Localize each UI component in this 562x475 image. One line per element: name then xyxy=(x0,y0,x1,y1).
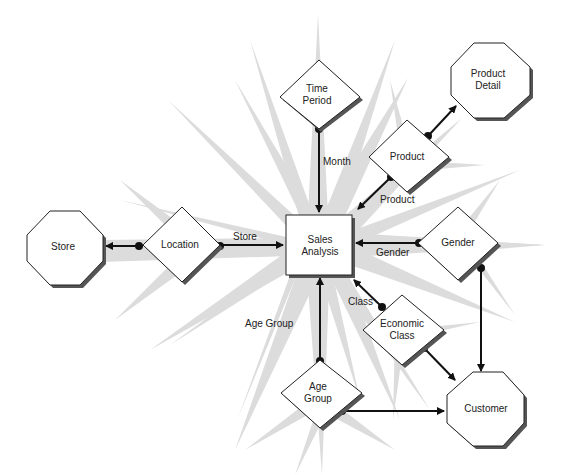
edge-label-age-group: Age Group xyxy=(245,318,293,330)
sales-analysis-line2: Analysis xyxy=(301,246,338,258)
store-label: Store xyxy=(51,241,75,253)
gender-line1: Gender xyxy=(441,237,474,249)
economic-class-label: Economic Class xyxy=(380,318,424,342)
edge-label-gender: Gender xyxy=(376,247,409,259)
time-period-line1: Time xyxy=(303,83,332,95)
economic-class-line1: Economic xyxy=(380,318,424,330)
product-detail-line1: Product xyxy=(471,68,505,80)
product-detail-label: Product Detail xyxy=(471,68,505,92)
edge-product-productdetail xyxy=(428,106,456,136)
gender-label: Gender xyxy=(441,237,474,249)
time-period-label: Time Period xyxy=(303,83,332,107)
economic-class-line2: Class xyxy=(380,330,424,342)
edge-economic-customer xyxy=(424,348,455,380)
edge-label-class: Class xyxy=(348,296,373,308)
sales-analysis-label: Sales Analysis xyxy=(301,234,338,258)
product-line1: Product xyxy=(390,151,424,163)
time-period-line2: Period xyxy=(303,95,332,107)
customer-label: Customer xyxy=(464,403,507,415)
product-detail-line2: Detail xyxy=(471,80,505,92)
age-group-line1: Age xyxy=(304,381,332,393)
product-label: Product xyxy=(390,151,424,163)
location-label: Location xyxy=(161,239,199,251)
edge-label-store: Store xyxy=(233,231,257,243)
store-line1: Store xyxy=(51,241,75,253)
customer-line1: Customer xyxy=(464,403,507,415)
edge-label-product: Product xyxy=(380,194,414,206)
edge-label-month: Month xyxy=(323,156,351,168)
sales-analysis-line1: Sales xyxy=(301,234,338,246)
age-group-label: Age Group xyxy=(304,381,332,405)
location-line1: Location xyxy=(161,239,199,251)
age-group-line2: Group xyxy=(304,393,332,405)
